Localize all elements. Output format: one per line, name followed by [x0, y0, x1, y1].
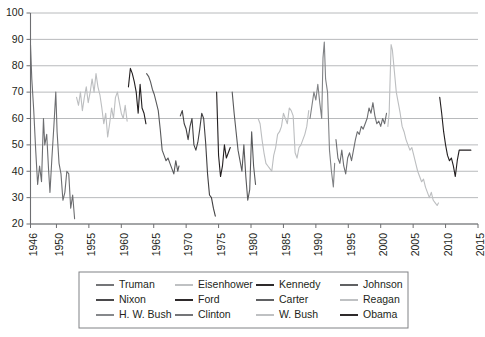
y-tick-label-80: 80 [12, 59, 24, 71]
series-line-clinton [336, 103, 387, 174]
legend-label-johnson: Johnson [363, 278, 403, 290]
x-tick-label-1960: 1960 [118, 233, 130, 257]
y-tick-label-20: 20 [12, 217, 24, 229]
gridlines-group [31, 13, 479, 224]
x-tick-label-2010: 2010 [442, 233, 454, 257]
presidential-approval-chart: 2030405060708090100 19461950195519601965… [0, 0, 485, 337]
legend-label-kennedy: Kennedy [279, 278, 321, 290]
y-tick-label-50: 50 [12, 138, 24, 150]
legend-label-nixon: Nixon [119, 293, 146, 305]
x-tick-label-1975: 1975 [215, 233, 227, 257]
x-tick-label-1970: 1970 [182, 233, 194, 257]
series-group [31, 42, 471, 219]
x-tick-label-1985: 1985 [280, 233, 292, 257]
series-line-eisenhower [77, 74, 128, 137]
x-tick-label-1955: 1955 [85, 233, 97, 257]
x-tick-label-1965: 1965 [150, 233, 162, 257]
legend-label-reagan: Reagan [363, 293, 400, 305]
legend-label-w-bush: W. Bush [279, 308, 318, 320]
series-line-w-bush [388, 45, 439, 206]
x-tick-label-1980: 1980 [247, 233, 259, 257]
y-axis-group: 2030405060708090100 [6, 6, 31, 229]
series-line-truman [31, 45, 75, 219]
x-tick-label-2005: 2005 [409, 233, 421, 257]
x-tick-label-1950: 1950 [53, 233, 65, 257]
legend-label-carter: Carter [279, 293, 309, 305]
legend-label-h-w-bush: H. W. Bush [119, 308, 172, 320]
chart-canvas: 2030405060708090100 19461950195519601965… [0, 0, 485, 337]
series-line-reagan [258, 108, 309, 171]
y-tick-label-40: 40 [12, 165, 24, 177]
series-line-ford [217, 92, 231, 176]
x-tick-label-1990: 1990 [312, 233, 324, 257]
x-axis-group: 1946195019551960196519701975198019851990… [27, 224, 485, 256]
series-line-johnson [147, 74, 179, 174]
y-tick-label-90: 90 [12, 33, 24, 45]
legend-group: TrumanEisenhowerKennedyJohnsonNixonFordC… [79, 272, 408, 328]
series-line-h-w-bush [310, 42, 335, 187]
y-tick-label-100: 100 [6, 6, 24, 18]
series-line-kennedy [128, 68, 146, 123]
y-tick-label-70: 70 [12, 85, 24, 97]
series-line-obama [440, 97, 471, 176]
legend-label-ford: Ford [198, 293, 220, 305]
x-tick-label-1995: 1995 [345, 233, 357, 257]
y-tick-label-60: 60 [12, 112, 24, 124]
legend-label-obama: Obama [363, 308, 398, 320]
y-tick-label-30: 30 [12, 191, 24, 203]
x-tick-label-2015: 2015 [474, 233, 485, 257]
x-tick-label-2000: 2000 [377, 233, 389, 257]
legend-label-clinton: Clinton [198, 308, 231, 320]
x-tick-label-1946: 1946 [27, 233, 39, 257]
legend-label-eisenhower: Eisenhower [198, 278, 253, 290]
series-line-carter [232, 92, 255, 200]
series-line-nixon [180, 111, 215, 217]
legend-label-truman: Truman [119, 278, 155, 290]
